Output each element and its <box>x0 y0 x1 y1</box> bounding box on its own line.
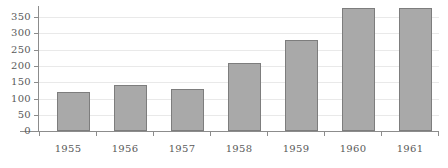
y-axis-label-50-wrap: 50 <box>0 110 31 120</box>
x-tick-4 <box>267 131 268 136</box>
y-axis-label-150: 150 <box>1 77 31 87</box>
x-tick-3 <box>210 131 211 136</box>
y-axis-label-0-wrap: 0 <box>0 126 31 136</box>
x-tick-7 <box>438 131 439 136</box>
y-axis-label-300-wrap: 300 <box>0 28 31 38</box>
bar-1957[interactable] <box>171 89 204 131</box>
bar-1961[interactable] <box>399 8 432 131</box>
x-tick-5 <box>324 131 325 136</box>
bars-group <box>39 6 439 131</box>
x-axis-label-1958: 1958 <box>209 143 269 154</box>
x-axis-label-1957: 1957 <box>152 143 212 154</box>
x-tick-2 <box>153 131 154 136</box>
y-axis-label-150-wrap: 150 <box>0 77 31 87</box>
x-axis-label-1960: 1960 <box>323 143 383 154</box>
bar-1960[interactable] <box>342 8 375 131</box>
x-axis-label-1959: 1959 <box>266 143 326 154</box>
y-axis-label-200: 200 <box>1 61 31 71</box>
y-axis-label-100: 100 <box>1 94 31 104</box>
x-tick-6 <box>381 131 382 136</box>
y-axis-label-250: 250 <box>1 45 31 55</box>
y-axis-label-200-wrap: 200 <box>0 61 31 71</box>
x-tick-1 <box>96 131 97 136</box>
bar-chart: 350 300 250 200 150 100 50 0 1955 1956 1… <box>0 0 448 28</box>
bar-1958[interactable] <box>228 63 261 131</box>
x-axis-label-1961: 1961 <box>380 143 440 154</box>
x-axis-label-1956: 1956 <box>95 143 155 154</box>
x-axis-line <box>20 131 439 132</box>
y-axis-label-350: 350 <box>1 12 31 22</box>
y-axis-label-50: 50 <box>1 110 31 120</box>
y-axis-label-100-wrap: 100 <box>0 94 31 104</box>
x-tick-0 <box>39 131 40 136</box>
bar-1955[interactable] <box>57 92 90 131</box>
x-axis-label-1955: 1955 <box>38 143 98 154</box>
y-axis-label-350-wrap: 350 <box>0 12 31 22</box>
bar-1956[interactable] <box>114 85 147 131</box>
y-axis-label-250-wrap: 250 <box>0 45 31 55</box>
y-axis-label-300: 300 <box>1 28 31 38</box>
bar-1959[interactable] <box>285 40 318 131</box>
y-axis-label-0: 0 <box>1 126 31 136</box>
